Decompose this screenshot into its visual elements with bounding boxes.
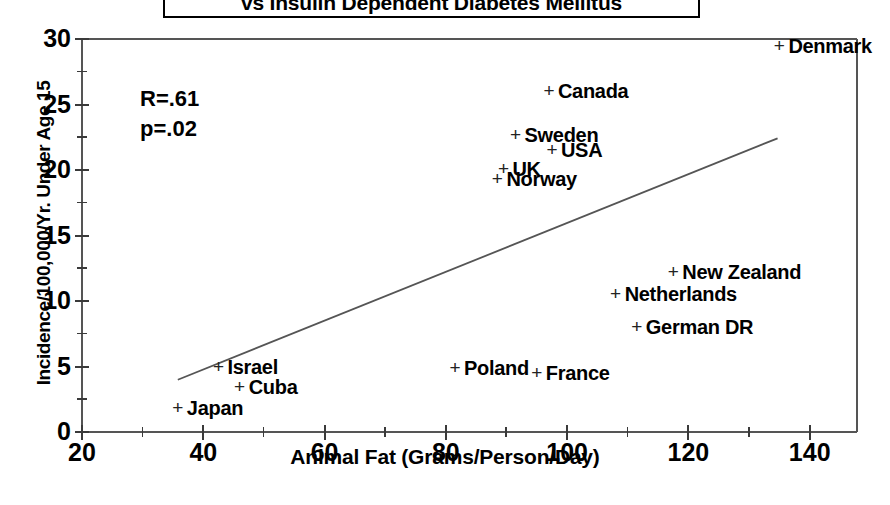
y-tick-label: 10 xyxy=(25,288,71,313)
y-tick-label: 30 xyxy=(25,26,71,51)
plus-marker-icon: + xyxy=(771,38,787,54)
data-point-label: Norway xyxy=(506,168,576,190)
data-point-label: Poland xyxy=(464,357,529,379)
plus-marker-icon: + xyxy=(210,359,226,375)
data-point-label: Canada xyxy=(558,80,628,102)
data-point-label: German DR xyxy=(646,316,753,338)
plus-marker-icon: + xyxy=(508,127,524,143)
x-axis-title: Animal Fat (Grams/Person/Day) xyxy=(0,445,890,469)
chart-title-box: vs Insulin Dependent Diabetes Mellitus xyxy=(163,0,700,18)
p-value: p=.02 xyxy=(140,114,199,144)
data-point-label: New Zealand xyxy=(682,261,801,283)
chart-title: vs Insulin Dependent Diabetes Mellitus xyxy=(241,0,622,16)
data-point-label: Israel xyxy=(227,356,277,378)
y-tick-label: 5 xyxy=(25,354,71,379)
y-tick-label: 25 xyxy=(25,92,71,117)
plus-marker-icon: + xyxy=(629,319,645,335)
plus-marker-icon: + xyxy=(489,171,505,187)
data-point-label: Netherlands xyxy=(625,283,737,305)
correlation-value: R=.61 xyxy=(140,84,199,114)
data-point-label: Cuba xyxy=(249,376,298,398)
data-point-label: Denmark xyxy=(788,35,872,57)
chart-figure: vs Insulin Dependent Diabetes Mellitus I… xyxy=(0,0,890,505)
plus-marker-icon: + xyxy=(608,286,624,302)
plus-marker-icon: + xyxy=(544,142,560,158)
statistics-annotation: R=.61 p=.02 xyxy=(140,84,199,145)
plus-marker-icon: + xyxy=(529,365,545,381)
y-tick-label: 15 xyxy=(25,223,71,248)
plus-marker-icon: + xyxy=(541,83,557,99)
data-point-label: France xyxy=(546,362,610,384)
data-point-label: USA xyxy=(561,139,602,161)
plus-marker-icon: + xyxy=(170,400,186,416)
plus-marker-icon: + xyxy=(665,264,681,280)
data-point-label: Japan xyxy=(187,397,243,419)
plus-marker-icon: + xyxy=(447,360,463,376)
plus-marker-icon: + xyxy=(232,379,248,395)
y-tick-label: 20 xyxy=(25,157,71,182)
